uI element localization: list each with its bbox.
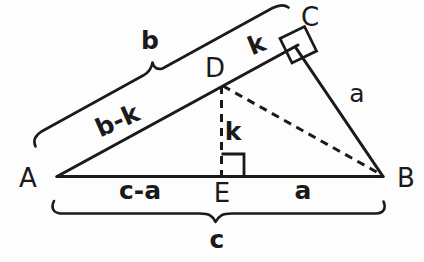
segment-label-k-vertical: k [225, 117, 243, 146]
vertex-label-C: C [301, 2, 319, 32]
vertex-label-B: B [397, 163, 415, 193]
edge-C-B [296, 48, 383, 177]
segment-label-k-upper: k [243, 28, 271, 62]
segment-label-a-right: a [349, 79, 364, 108]
geometry-figure: A B C D E b k b-k a k c-a a c [0, 0, 424, 262]
segment-label-b-minus-k: b-k [91, 98, 145, 143]
right-angle-at-E [222, 154, 245, 176]
segment-label-c: c [210, 225, 225, 254]
vertex-label-D: D [205, 53, 225, 83]
geometry-canvas: A B C D E b k b-k a k c-a a c [0, 0, 424, 262]
brace-b-along-AC [34, 5, 288, 146]
vertex-label-E: E [214, 178, 230, 208]
edge-A-C [57, 45, 298, 177]
segment-label-c-minus-a: c-a [119, 176, 161, 205]
segment-labels: b k b-k a k c-a a c [91, 26, 365, 254]
segment-label-a-bottom: a [295, 176, 312, 205]
segment-label-b: b [141, 26, 159, 55]
vertex-label-A: A [19, 163, 37, 193]
